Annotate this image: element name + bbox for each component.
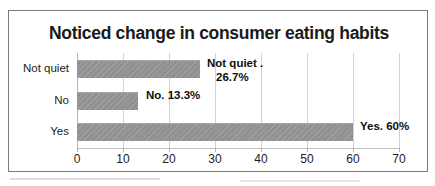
category-label-yes: Yes	[50, 125, 69, 137]
bar-yes[interactable]	[77, 123, 353, 141]
xtick-label-20: 20	[162, 152, 175, 166]
data-label-yes-line1: Yes. 60%	[360, 120, 409, 132]
data-label-not-quiet: Not quiet . 26.7%	[207, 57, 263, 84]
scan-artifact-secondary	[240, 180, 360, 182]
xtick-label-0: 0	[74, 152, 81, 166]
xtick-label-10: 10	[116, 152, 129, 166]
category-label-not-quiet: Not quiet	[23, 62, 69, 74]
data-label-yes: Yes. 60%	[360, 120, 409, 134]
chart-frame: Noticed change in consumer eating habits…	[8, 10, 428, 172]
gridline-70	[399, 53, 400, 148]
data-label-no-line1: No. 13.3%	[146, 89, 200, 101]
data-label-not-quiet-line2: 26.7%	[216, 71, 263, 85]
data-label-not-quiet-line1: Not quiet .	[207, 57, 263, 69]
gridline-60	[353, 53, 354, 148]
xtick-label-50: 50	[300, 152, 313, 166]
xtick-label-60: 60	[346, 152, 359, 166]
xtick-label-70: 70	[392, 152, 405, 166]
xtick-label-40: 40	[254, 152, 267, 166]
bar-not-quiet[interactable]	[77, 60, 200, 78]
bar-no[interactable]	[77, 92, 138, 110]
chart-title: Noticed change in consumer eating habits	[9, 23, 429, 44]
plot-area: Not quiet Not quiet . 26.7% No No. 13.3%…	[77, 53, 399, 148]
x-axis-line	[77, 148, 399, 149]
category-label-no: No	[54, 94, 69, 106]
xtick-label-30: 30	[208, 152, 221, 166]
scan-artifact	[10, 178, 160, 180]
data-label-no: No. 13.3%	[146, 89, 200, 103]
